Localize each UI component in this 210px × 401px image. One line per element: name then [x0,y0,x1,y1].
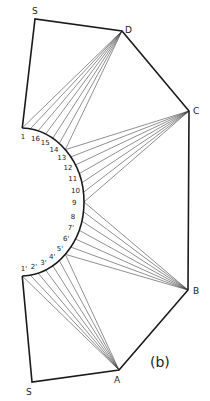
vertex-label-d: D [125,25,132,35]
vertex-labels: SDCBAS [26,6,199,397]
projection-line [59,31,122,144]
vertex-label-s_bottom: S [26,387,32,397]
projection-line [82,111,189,183]
vertex-label-c: C [193,106,199,116]
figure-caption: (b) [150,354,170,370]
arc-point-label: 7' [68,224,74,232]
development-diagram: SDCBAS 116151413121110987'6'5'4'3'2'1' (… [0,0,210,401]
projection-line [53,31,122,138]
vertex-label-s_top: S [32,6,38,16]
projection-line [75,111,189,165]
projection-line [30,31,122,129]
projection-line [65,111,189,150]
projection-line [65,254,119,370]
arc-point-label: 3' [40,259,46,267]
upper-outline [22,19,189,382]
projection-line [82,221,188,290]
arc-point-label: 4' [49,253,55,261]
arc-point-label: 13 [57,154,66,162]
projection-line [65,31,122,150]
projection-line [79,230,188,290]
vertex-label-a: A [114,375,121,385]
arc-point-label: 11 [68,175,77,183]
projection-line [83,212,188,290]
projection-line [75,239,188,290]
projection-line [46,31,122,134]
vertex-label-b: B [193,286,199,296]
projection-line [65,254,188,290]
projection-line [30,275,119,370]
arc-point-label: 15 [41,139,50,147]
arc-point-label: 14 [50,146,59,154]
projection-line [46,270,119,370]
projection-line [38,273,119,370]
arc-point-label: 6' [63,235,69,243]
arc-point-label: 8 [71,213,75,221]
projection-line [38,31,122,131]
projection-line [79,111,189,174]
arc-point-label: 9 [72,199,76,207]
projection-line [84,202,188,290]
arc-point-label: 1' [21,265,27,273]
arc-point-label: 1 [21,133,25,141]
arc-point-label: 10 [71,187,80,195]
projection-line [71,247,188,290]
arc-point-label: 2' [31,263,37,271]
projection-line [84,111,189,202]
projection-line [22,276,119,370]
arc-point-label: 12 [64,164,73,172]
projection-line [22,31,122,128]
arc-point-label: 16 [31,135,40,143]
projection-line [53,266,119,370]
projection-line [71,111,189,157]
projection-line [83,111,189,192]
arc-point-label: 5' [57,245,63,253]
arc-point-labels: 116151413121110987'6'5'4'3'2'1' [21,133,80,273]
projection-line [59,260,119,370]
